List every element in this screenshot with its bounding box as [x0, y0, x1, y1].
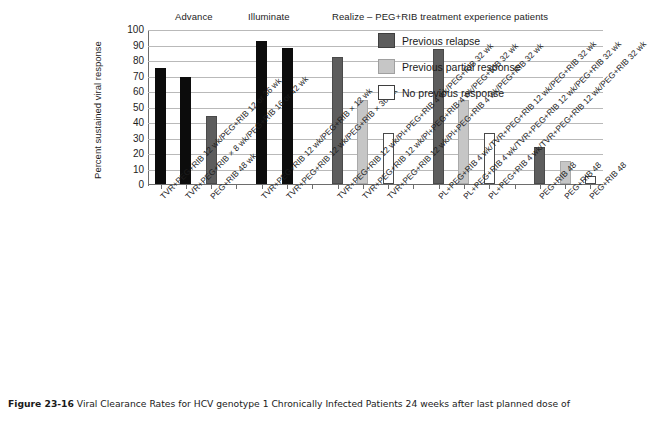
legend-item: Previous partial response: [378, 56, 610, 77]
group-header-realize: Realize – PEG+RIB treatment experience p…: [332, 11, 548, 22]
y-axis-title: Percent sustained viral response: [92, 35, 104, 185]
bar: [155, 68, 166, 184]
x-tick: [338, 185, 339, 189]
legend-label: No previous response: [402, 87, 504, 99]
legend-item: Previous relapse: [378, 30, 610, 51]
y-tick-label: 60: [118, 87, 144, 97]
figure-caption-text: Viral Clearance Rates for HCV genotype 1…: [77, 398, 570, 409]
group-header-advance: Advance: [175, 11, 213, 22]
y-tick-label: 30: [118, 134, 144, 144]
figure-caption-label: Figure 23-16: [8, 398, 74, 409]
legend-label: Previous relapse: [402, 35, 480, 47]
group-header-illuminate: Illuminate: [248, 11, 290, 22]
x-tick: [236, 185, 237, 189]
y-axis-tick-labels: 0102030405060708090100: [118, 30, 144, 186]
x-tick: [413, 185, 414, 189]
y-tick-label: 10: [118, 165, 144, 175]
y-tick-label: 20: [118, 149, 144, 159]
y-tick-label: 100: [118, 25, 144, 35]
y-tick-label: 90: [118, 41, 144, 51]
x-tick: [515, 185, 516, 189]
y-tick-label: 70: [118, 72, 144, 82]
legend-swatch: [378, 85, 395, 100]
x-tick: [262, 185, 263, 189]
legend: Previous relapsePrevious partial respons…: [378, 30, 610, 108]
y-tick-label: 80: [118, 56, 144, 66]
x-tick: [161, 185, 162, 189]
y-tick-label: 50: [118, 103, 144, 113]
legend-swatch: [378, 33, 395, 48]
legend-item: No previous response: [378, 82, 610, 103]
y-tick-label: 40: [118, 118, 144, 128]
x-tick: [312, 185, 313, 189]
legend-label: Previous partial response: [402, 61, 520, 73]
legend-swatch: [378, 59, 395, 74]
y-tick-label: 0: [118, 180, 144, 190]
x-tick: [439, 185, 440, 189]
figure-caption: Figure 23-16 Viral Clearance Rates for H…: [8, 398, 616, 411]
